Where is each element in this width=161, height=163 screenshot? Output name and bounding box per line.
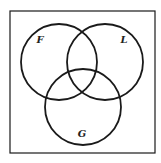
set-label-f: F [35, 34, 44, 45]
set-label-g: G [78, 128, 87, 139]
set-label-l: L [119, 34, 127, 45]
set-circle-l [67, 24, 143, 100]
venn-diagram: FLG [0, 0, 161, 163]
set-circle-f [21, 24, 97, 100]
